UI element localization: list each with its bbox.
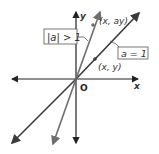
point-x-ay bbox=[91, 23, 95, 27]
identity-line-label: a = 1 bbox=[121, 48, 147, 59]
point-x-ay-label: (x, ay) bbox=[99, 16, 128, 26]
origin-label: O bbox=[80, 83, 88, 93]
point-x-y-label: (x, y) bbox=[98, 62, 121, 72]
x-axis-label: x bbox=[133, 81, 141, 91]
y-axis-label: y bbox=[80, 11, 87, 21]
dilation-diagram: |a| > 1 a = 1 (x, y) (x, ay) y x O bbox=[0, 0, 159, 154]
stretched-line-label: |a| > 1 bbox=[47, 32, 81, 44]
point-x-y bbox=[93, 57, 97, 61]
identity-line-leader bbox=[110, 41, 119, 47]
